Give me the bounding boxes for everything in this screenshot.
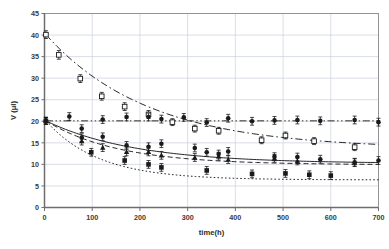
- y-tick-label: 20: [31, 117, 39, 126]
- data-point-marker: [295, 118, 300, 123]
- x-tick-label: 0: [43, 213, 47, 222]
- y-tick-label: 10: [31, 160, 39, 169]
- data-point-marker: [283, 133, 288, 138]
- y-tick-label: 5: [35, 182, 39, 191]
- y-tick-label: 45: [31, 9, 39, 18]
- data-point-marker: [89, 150, 94, 155]
- x-tick-label: 200: [134, 213, 146, 222]
- data-point-marker: [204, 150, 209, 155]
- data-point-marker: [159, 141, 164, 146]
- y-tick-label: 35: [31, 52, 39, 61]
- x-tick-label: 500: [277, 213, 289, 222]
- x-tick-label: 100: [86, 213, 98, 222]
- data-point-marker: [193, 126, 198, 131]
- data-point-marker: [170, 120, 175, 125]
- data-point-marker: [376, 158, 381, 163]
- y-tick-label: 30: [31, 74, 39, 83]
- x-axis-title: time(h): [199, 228, 225, 237]
- data-point-marker: [250, 119, 255, 124]
- data-point-marker: [122, 158, 127, 163]
- data-point-marker: [100, 117, 105, 122]
- data-point-marker: [216, 128, 221, 133]
- y-tick-label: 25: [31, 95, 39, 104]
- data-point-marker: [352, 118, 357, 123]
- data-point-marker: [259, 138, 264, 143]
- data-point-marker: [250, 172, 255, 177]
- data-point-marker: [57, 53, 62, 58]
- data-point-marker: [352, 145, 357, 150]
- x-tick-label: 400: [229, 213, 241, 222]
- data-point-marker: [146, 115, 151, 120]
- data-point-marker: [78, 76, 83, 81]
- data-point-marker: [99, 94, 104, 99]
- data-point-marker: [204, 120, 209, 125]
- data-point-marker: [307, 172, 312, 177]
- data-point-marker: [67, 114, 72, 119]
- data-point-marker: [312, 139, 317, 144]
- data-point-marker: [159, 165, 164, 170]
- data-point-marker: [44, 119, 49, 124]
- data-point-marker: [328, 173, 333, 178]
- data-point-marker: [318, 119, 323, 124]
- data-point-marker: [100, 134, 105, 139]
- data-point-marker: [272, 118, 277, 123]
- x-tick-label: 300: [182, 213, 194, 222]
- y-tick-label: 15: [31, 139, 39, 148]
- data-point-marker: [124, 143, 129, 148]
- data-point-marker: [122, 104, 127, 109]
- data-point-marker: [124, 115, 129, 120]
- plot-area: [45, 14, 379, 208]
- data-point-marker: [44, 32, 49, 37]
- data-point-marker: [79, 126, 84, 131]
- y-tick-label: 40: [31, 31, 39, 40]
- chart-figure: 0510152025303540450100200300400500600700…: [0, 0, 389, 249]
- data-point-marker: [318, 157, 323, 162]
- x-tick-label: 700: [373, 213, 385, 222]
- data-point-marker: [193, 146, 198, 151]
- data-point-marker: [182, 115, 187, 120]
- x-tick-label: 600: [325, 213, 337, 222]
- data-point-marker: [159, 117, 164, 122]
- data-point-marker: [146, 162, 151, 167]
- y-tick-label: 0: [35, 203, 39, 212]
- data-point-marker: [226, 149, 231, 154]
- scatter-plot-svg: 0510152025303540450100200300400500600700…: [0, 0, 389, 249]
- data-point-marker: [226, 116, 231, 121]
- data-point-marker: [283, 171, 288, 176]
- data-point-marker: [204, 168, 209, 173]
- data-point-marker: [376, 120, 381, 125]
- y-axis-title: V (μl): [9, 101, 18, 120]
